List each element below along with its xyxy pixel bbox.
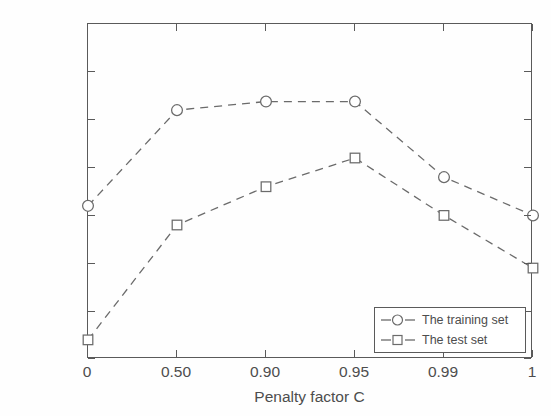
- data-point-square: [83, 335, 93, 345]
- y-axis-label-container: Overall accuracy: [12, 23, 34, 358]
- legend-label-training-set: The training set: [422, 313, 508, 327]
- data-point-square: [261, 182, 271, 192]
- data-point-circle: [172, 105, 183, 116]
- y-axis-tick: [524, 215, 531, 216]
- series-line: [88, 102, 533, 216]
- x-axis-tick: [265, 350, 266, 357]
- x-axis-tick: [532, 24, 533, 31]
- data-point-circle: [350, 96, 361, 107]
- y-axis-tick: [88, 23, 95, 24]
- y-axis-tick: [88, 311, 95, 312]
- x-axis-tick-label: 0: [83, 364, 92, 380]
- data-point-square: [528, 263, 538, 273]
- y-axis-tick: [88, 71, 95, 72]
- data-point-square: [350, 153, 360, 163]
- y-axis-tick: [524, 167, 531, 168]
- x-axis-tick: [176, 350, 177, 357]
- y-axis-tick: [88, 263, 95, 264]
- x-axis-tick: [176, 24, 177, 31]
- x-axis-tick: [354, 350, 355, 357]
- y-axis-tick: [88, 167, 95, 168]
- y-axis-tick: [88, 215, 95, 216]
- x-axis-tick-label: 0.50: [161, 364, 191, 380]
- x-axis-tick: [265, 24, 266, 31]
- x-axis-tick-label: 0.99: [428, 364, 458, 380]
- y-axis-tick: [524, 71, 531, 72]
- data-point-circle: [439, 172, 450, 183]
- x-axis-tick: [354, 24, 355, 31]
- data-point-square: [172, 220, 182, 230]
- circle-marker-icon: [380, 312, 420, 328]
- x-axis-tick: [87, 24, 88, 31]
- legend-item-test-set: The test set: [375, 330, 525, 350]
- y-axis-tick: [524, 263, 531, 264]
- data-point-circle: [261, 96, 272, 107]
- y-axis-tick: [524, 23, 531, 24]
- x-axis-tick: [443, 24, 444, 31]
- x-axis-tick: [532, 350, 533, 357]
- x-axis-tick-label: 1: [528, 364, 537, 380]
- legend-item-training-set: The training set: [375, 310, 525, 330]
- legend-label-test-set: The test set: [422, 333, 487, 347]
- chart-figure: Overall accuracy Penalty factor C The tr…: [0, 0, 551, 416]
- y-axis-label: Overall accuracy: [16, 0, 38, 23]
- y-axis-tick: [524, 358, 531, 359]
- x-axis-tick-label: 0.90: [250, 364, 280, 380]
- square-marker-icon: [380, 332, 420, 348]
- y-axis-tick: [88, 358, 95, 359]
- data-point-square: [439, 211, 449, 221]
- x-axis-tick: [87, 350, 88, 357]
- chart-legend: The training set The test set: [374, 307, 526, 353]
- data-point-circle: [83, 200, 94, 211]
- y-axis-tick: [88, 119, 95, 120]
- y-axis-tick: [524, 119, 531, 120]
- x-axis-label: Penalty factor C: [87, 388, 532, 406]
- x-axis-tick-label: 0.95: [339, 364, 369, 380]
- series-training-set: [83, 96, 539, 221]
